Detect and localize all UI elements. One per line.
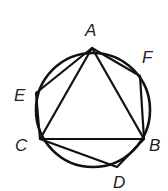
vertex-label-B: B bbox=[149, 136, 160, 155]
vertex-label-A: A bbox=[84, 21, 96, 40]
vertex-label-F: F bbox=[142, 48, 154, 67]
vertex-label-C: C bbox=[15, 136, 28, 155]
vertex-label-D: D bbox=[113, 173, 125, 191]
geometry-diagram: AFBDEC bbox=[0, 0, 168, 191]
vertex-label-E: E bbox=[14, 86, 26, 105]
triangle-ABC bbox=[40, 48, 144, 139]
